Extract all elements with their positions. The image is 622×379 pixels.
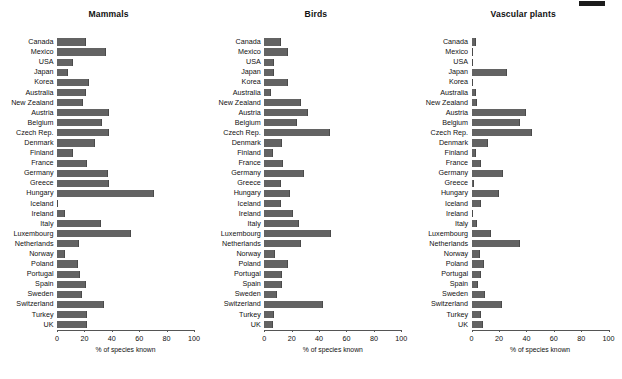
bar-row: Belgium [415, 118, 622, 128]
bar [57, 119, 102, 126]
bar-track [264, 98, 401, 108]
bar [57, 149, 73, 156]
bar-row: Netherlands [415, 239, 622, 249]
x-tick-label: 80 [577, 334, 585, 343]
x-tick-label: 40 [108, 334, 116, 343]
bar [264, 240, 301, 247]
bar-row: Czech Rep. [207, 128, 414, 138]
category-label: Australia [415, 89, 472, 97]
x-tick-label: 0 [470, 334, 474, 343]
bar-row: Japan [207, 67, 414, 77]
bar-row: Ireland [0, 209, 207, 219]
category-label: Austria [0, 109, 57, 117]
category-label: Belgium [415, 119, 472, 127]
bar-track [57, 239, 194, 249]
bar-row: Denmark [415, 138, 622, 148]
category-label: Denmark [207, 139, 264, 147]
x-tick-label: 60 [550, 334, 558, 343]
bar-row: Netherlands [0, 239, 207, 249]
bar [57, 129, 109, 136]
category-label: Portugal [0, 270, 57, 278]
bar-track [57, 57, 194, 67]
bar [472, 190, 499, 197]
chart-panels: MammalsCanadaMexicoUSAJapanKoreaAustrali… [0, 0, 622, 379]
category-label: Czech Rep. [0, 129, 57, 137]
bar-track [472, 37, 609, 47]
bar-track [57, 77, 194, 87]
bar-row: Poland [207, 259, 414, 269]
bar [472, 89, 476, 96]
bar-row: Greece [415, 178, 622, 188]
category-label: USA [415, 58, 472, 66]
bar-track [472, 77, 609, 87]
bar-row: Italy [0, 219, 207, 229]
bar [264, 220, 298, 227]
bar [472, 260, 484, 267]
bar-row: Italy [207, 219, 414, 229]
bar-track [472, 108, 609, 118]
category-label: Hungary [0, 189, 57, 197]
bar [472, 99, 477, 106]
bar [472, 129, 532, 136]
bar [57, 139, 95, 146]
category-label: New Zealand [415, 99, 472, 107]
bar [472, 170, 504, 177]
bar-track [472, 188, 609, 198]
bar-row: Switzerland [207, 299, 414, 309]
bar [57, 89, 86, 96]
category-label: Spain [207, 280, 264, 288]
bar-row: New Zealand [207, 98, 414, 108]
bar-track [57, 259, 194, 269]
bar-row: Denmark [207, 138, 414, 148]
category-label: Poland [0, 260, 57, 268]
bar-row: Spain [0, 279, 207, 289]
bar [57, 38, 86, 45]
bar-row: France [415, 158, 622, 168]
category-label: Sweden [207, 290, 264, 298]
bar-track [264, 249, 401, 259]
category-label: Germany [0, 169, 57, 177]
category-label: Greece [415, 179, 472, 187]
bar [264, 210, 293, 217]
category-label: Belgium [0, 119, 57, 127]
category-label: Japan [415, 68, 472, 76]
bar-row: Germany [0, 168, 207, 178]
x-tick-labels: 020406080100 [264, 331, 401, 343]
category-label: Mexico [415, 48, 472, 56]
category-label: Spain [415, 280, 472, 288]
bar [264, 160, 283, 167]
bar-row: Canada [415, 37, 622, 47]
bar [472, 321, 483, 328]
category-label: Canada [415, 38, 472, 46]
bar-track [57, 199, 194, 209]
bar [57, 160, 87, 167]
bar [472, 109, 527, 116]
bar-track [472, 299, 609, 309]
bar-track [57, 148, 194, 158]
bar-row: Luxembourg [415, 229, 622, 239]
bar-track [472, 118, 609, 128]
category-label: Canada [0, 38, 57, 46]
bar-row: USA [0, 57, 207, 67]
bar-row: Mexico [207, 47, 414, 57]
bar-track [57, 168, 194, 178]
bar-row: Australia [415, 87, 622, 97]
category-label: Norway [415, 250, 472, 258]
bar [57, 79, 89, 86]
bar-track [57, 118, 194, 128]
bar-track [57, 279, 194, 289]
category-label: Portugal [415, 270, 472, 278]
bar-row: UK [415, 320, 622, 330]
bar-row: Belgium [207, 118, 414, 128]
bar-track [264, 219, 401, 229]
chart-title: Birds [207, 8, 414, 20]
bar-track [264, 209, 401, 219]
bar [264, 190, 290, 197]
category-label: Mexico [207, 48, 264, 56]
bar [472, 271, 482, 278]
bar-row: Hungary [0, 188, 207, 198]
bar-row: Korea [0, 77, 207, 87]
bar-rows: CanadaMexicoUSAJapanKoreaAustraliaNew Ze… [207, 37, 414, 330]
category-label: Korea [415, 78, 472, 86]
bar-track [472, 209, 609, 219]
